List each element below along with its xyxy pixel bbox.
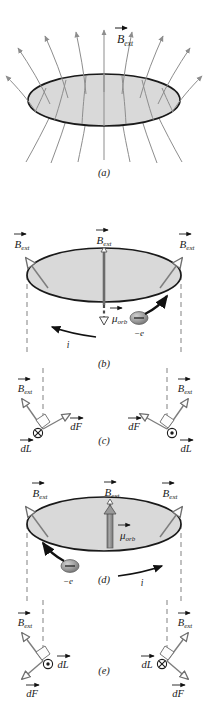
panel-c: Bext dL dF Bext [18,368,194,454]
panel-label-e: (e) [98,665,110,677]
right-angle-marker-right-e [160,646,174,660]
panel-b: Bext Bext Bext μorb −e i (b) [14,230,195,370]
right-angle-marker-left-e [36,646,50,660]
disk-surface-d [27,497,181,551]
b-ext-subscript-a: ext [124,39,134,48]
force-diagram-left-e: Bext dL dF [18,613,70,699]
current-label-b: i [67,340,70,350]
electron-motion-arrow-b [145,296,167,314]
label-dF-left-c: dF [70,418,83,432]
electron-label-b: −e [134,328,144,338]
label-B-ext-center-b: Bext [96,230,112,248]
label-B-ext-right-e: Bext [178,613,194,630]
mu-subscript-d: orb [126,535,136,543]
label-B-ext-right-c: Bext [178,379,194,396]
mu-orb-head-b [100,317,109,325]
svg-text:dL: dL [180,443,191,454]
label-B-ext-left-b: Bext [14,234,30,252]
label-B-ext-left-e: Bext [18,613,34,630]
panel-label-a: (a) [98,167,111,179]
dL-out-of-page-left-e [43,659,52,668]
label-dF-right-c: dF [128,418,141,432]
svg-text:Bext: Bext [18,383,34,396]
label-dL-left-e: dL [57,656,70,670]
svg-text:Bext: Bext [178,617,194,630]
label-B-ext-right-b: Bext [179,234,195,252]
df-vector-right-e [167,661,188,679]
svg-text:μorb: μorb [111,312,128,326]
svg-text:dL: dL [20,443,31,454]
force-diagram-right-e: Bext dL dF [141,613,193,699]
svg-text:dF: dF [26,688,38,699]
panel-d: Bext Bext Bext μorb −e i (d) [26,482,182,604]
svg-text:Bext: Bext [97,234,113,248]
current-label-d: i [141,578,144,588]
current-arrow-b [52,327,96,337]
electron-label-d: −e [63,576,73,586]
dL-out-of-page-right-c [167,428,176,437]
svg-text:dF: dF [128,421,140,432]
mu-orb-shaft-d [107,512,113,548]
label-B-ext-a: Bext [115,28,134,48]
svg-text:Bext: Bext [15,238,31,252]
dL-into-page-right-e [157,659,166,668]
force-diagram-left-c: Bext dL dF [18,379,83,454]
panel-label-b: (b) [98,358,111,370]
svg-text:Bext: Bext [178,383,194,396]
label-dL-right-e: dL [141,656,154,670]
label-B-ext-right-d: Bext [162,483,178,501]
panel-e: Bext dL dF [18,600,194,699]
svg-text:Bext: Bext [33,487,49,501]
label-B-ext-center-d: Bext [104,482,120,500]
svg-text:dF: dF [70,421,82,432]
svg-text:Bext: Bext [180,238,196,252]
label-dL-left-c: dL [20,440,33,454]
label-B-ext-left-c: Bext [18,379,34,396]
label-mu-orb-b: μorb [110,308,128,326]
label-dF-right-e: dF [172,685,185,699]
current-arrow-d [118,566,162,576]
figure-root: Bext (a) Bext [0,0,209,704]
svg-text:dL: dL [141,659,152,670]
physics-figure: Bext (a) Bext [0,0,209,704]
df-vector-left-e [22,661,43,679]
panel-label-c: (c) [98,435,110,447]
svg-text:dF: dF [172,688,184,699]
dL-into-page-left-c [33,428,42,437]
svg-text:dL: dL [57,659,68,670]
svg-text:Bext: Bext [163,487,179,501]
mu-subscript-b: orb [118,318,128,326]
svg-text:Bext: Bext [18,617,34,630]
force-diagram-right-c: Bext dL dF [128,379,193,454]
label-dF-left-e: dF [26,685,39,699]
label-dL-right-c: dL [180,440,193,454]
panel-label-d: (d) [98,574,111,586]
panel-a: Bext (a) [6,28,202,179]
label-B-ext-left-d: Bext [32,483,48,501]
